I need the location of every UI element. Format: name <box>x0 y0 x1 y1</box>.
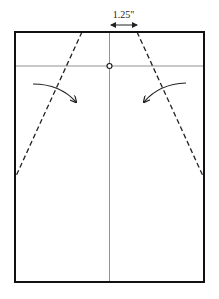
dimension-label: 1.25" <box>113 9 135 20</box>
left-fold-line <box>16 32 82 176</box>
right-fold-line <box>137 32 203 176</box>
reference-point-icon <box>107 64 112 69</box>
folding-diagram: 1.25" <box>0 0 219 299</box>
